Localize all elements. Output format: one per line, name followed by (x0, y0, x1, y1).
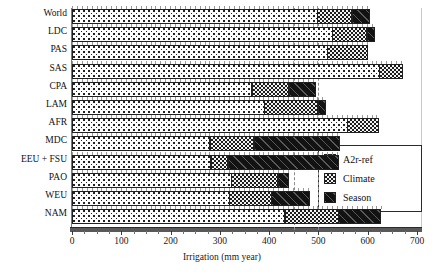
bar-segment-season (289, 82, 316, 97)
x-tick-minor (343, 231, 344, 234)
y-axis-label-cpa: CPA (49, 81, 67, 91)
x-tick-minor (195, 231, 196, 234)
x-tick-label-600: 600 (361, 236, 375, 246)
y-axis-label-ldc: LDC (48, 26, 67, 36)
bar-row: CPA (72, 82, 417, 97)
x-tick-label-400: 400 (262, 236, 276, 246)
stacked-bar (72, 100, 326, 115)
bar-row: World (72, 9, 417, 24)
bar-row: NAM (72, 209, 417, 224)
x-tick-minor (134, 231, 135, 234)
stacked-bar (72, 209, 381, 224)
bar-row: EEU + FSU (72, 155, 417, 170)
bar-row: MDC (72, 136, 417, 151)
bar-segment-climate (229, 191, 272, 206)
bar-segment-a2r-ref (72, 209, 285, 224)
bar-segment-a2r-ref (72, 173, 232, 188)
bar-segment-season (352, 9, 371, 24)
bar-segment-climate (347, 118, 380, 133)
x-axis-title: Irrigation (mm year) (0, 252, 444, 262)
bar-row: AFR (72, 118, 417, 133)
bar-segment-a2r-ref (72, 191, 230, 206)
x-tick-minor (84, 231, 85, 234)
y-axis-label-sas: SAS (50, 63, 67, 73)
x-tick-minor (257, 231, 258, 234)
x-tick-minor (281, 231, 282, 234)
x-tick-minor (294, 231, 295, 234)
bar-segment-a2r-ref (72, 64, 380, 79)
bar-segment-a2r-ref (72, 155, 211, 170)
bar-segment-climate (317, 9, 352, 24)
y-axis-label-nam: NAM (45, 208, 67, 218)
stacked-bar (72, 155, 339, 170)
stacked-bar (72, 64, 403, 79)
bar-row: LDC (72, 27, 417, 42)
bar-row: PAO (72, 173, 417, 188)
x-tick-minor (355, 231, 356, 234)
x-tick-minor (380, 231, 381, 234)
x-tick-100 (121, 231, 122, 235)
y-axis-label-eeu-fsu: EEU + FSU (21, 154, 67, 164)
x-tick-600 (368, 231, 369, 235)
y-axis-label-afr: AFR (49, 117, 67, 127)
x-tick-400 (269, 231, 270, 235)
bar-segment-a2r-ref (72, 27, 333, 42)
bar-segment-climate (210, 136, 254, 151)
x-tick-200 (171, 231, 172, 235)
bar-segment-season (228, 155, 340, 170)
stacked-bar (72, 173, 289, 188)
y-axis-label-pao: PAO (49, 172, 67, 182)
x-tick-minor (208, 231, 209, 234)
bar-segment-climate (231, 173, 278, 188)
bar-segment-climate (252, 82, 289, 97)
x-tick-minor (405, 231, 406, 234)
bar-segment-season (318, 100, 326, 115)
bar-segment-climate (332, 27, 367, 42)
x-tick-minor (97, 231, 98, 234)
x-tick-minor (331, 231, 332, 234)
x-tick-label-500: 500 (311, 236, 325, 246)
x-tick-minor (245, 231, 246, 234)
x-tick-label-300: 300 (213, 236, 227, 246)
y-axis-label-mdc: MDC (45, 135, 67, 145)
x-axis-line (70, 228, 422, 232)
bar-segment-season (367, 27, 375, 42)
x-tick-500 (318, 231, 319, 235)
bar-row: PAS (72, 45, 417, 60)
x-tick-minor (306, 231, 307, 234)
x-tick-700 (417, 231, 418, 235)
bar-row: LAM (72, 100, 417, 115)
x-tick-label-200: 200 (163, 236, 177, 246)
stacked-bar (72, 82, 316, 97)
x-tick-300 (220, 231, 221, 235)
stacked-bar (72, 136, 340, 151)
bar-segment-climate (379, 64, 402, 79)
bar-segment-a2r-ref (72, 9, 318, 24)
x-tick-label-100: 100 (114, 236, 128, 246)
y-axis-label-world: World (43, 8, 67, 18)
x-tick-minor (183, 231, 184, 234)
bar-segment-climate (264, 100, 318, 115)
y-axis-label-pas: PAS (50, 44, 67, 54)
x-tick-label-0: 0 (70, 236, 75, 246)
bar-segment-a2r-ref (72, 100, 265, 115)
bar-segment-season (271, 191, 310, 206)
y-axis-label-weu: WEU (45, 190, 67, 200)
irrigation-stacked-bar-chart: 0100200300400500600700 Irrigation (mm ye… (0, 0, 444, 272)
x-tick-minor (146, 231, 147, 234)
bar-segment-season (338, 209, 381, 224)
bar-row: WEU (72, 191, 417, 206)
bar-segment-a2r-ref (72, 118, 348, 133)
x-tick-minor (158, 231, 159, 234)
bar-segment-climate (327, 45, 368, 60)
x-tick-minor (232, 231, 233, 234)
stacked-bar (72, 9, 370, 24)
stacked-bar (72, 118, 379, 133)
bar-segment-climate (285, 209, 339, 224)
stacked-bar (72, 191, 310, 206)
bar-row: SAS (72, 64, 417, 79)
y-axis-label-lam: LAM (46, 99, 67, 109)
bar-segment-climate (211, 155, 228, 170)
x-tick-label-700: 700 (410, 236, 424, 246)
stacked-bar (72, 27, 375, 42)
